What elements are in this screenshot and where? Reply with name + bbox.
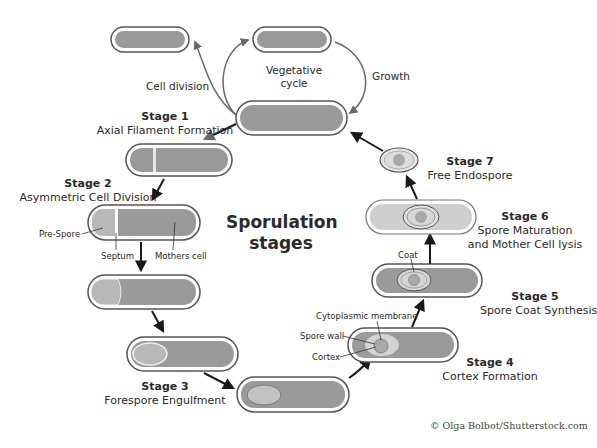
cell-stage6	[366, 200, 476, 234]
mothers-cell-label: Mothers cell	[155, 251, 207, 261]
stage7-number: Stage 7	[425, 155, 515, 169]
stage4-label: Stage 4 Cortex Formation	[440, 356, 540, 384]
title-line1: Sporulation	[226, 212, 336, 233]
cell-stage7-endospore	[380, 148, 418, 172]
stage5-label: Stage 5 Spore Coat Synthesis	[480, 290, 590, 318]
stage3-label: Stage 3 Forespore Engulfment	[100, 380, 230, 408]
arrow-stage7-to-vegetative	[352, 133, 383, 151]
stage4-name: Cortex Formation	[442, 370, 537, 383]
stage2-label: Stage 2 Asymmetric Cell Division	[18, 177, 158, 205]
vegetative-label-line1: Vegetative	[259, 64, 329, 77]
credit-text: © Olga Bolbot/Shutterstock.com	[430, 420, 588, 431]
arrow-growth	[335, 42, 366, 113]
stage6-name-line2: and Mother Cell lysis	[465, 238, 585, 252]
cell-stage5	[372, 264, 482, 297]
stage1-label: Stage 1 Axial Filament Formation	[85, 110, 245, 138]
pre-spore-label: Pre-Spore	[39, 229, 80, 239]
cytoplasmic-membrane-label: Cytoplasmic membrane	[316, 311, 417, 321]
cortex-label: Cortex	[312, 352, 340, 362]
diagram-title: Sporulation stages	[226, 212, 336, 254]
cell-engulfment-start	[88, 275, 200, 309]
stage3-name: Forespore Engulfment	[104, 394, 225, 407]
stage7-label: Stage 7 Free Endospore	[425, 155, 515, 183]
cell-division-label: Cell division	[146, 80, 209, 93]
title-line2: stages	[226, 233, 336, 254]
cell-daughter-left	[111, 27, 189, 52]
stage1-number: Stage 1	[85, 110, 245, 124]
stage6-name: Spore Maturation	[465, 224, 585, 238]
stage3-number: Stage 3	[100, 380, 230, 394]
arrow-cell-division-left	[195, 42, 236, 115]
coat-label: Coat	[398, 250, 418, 260]
cell-stage3	[127, 337, 238, 371]
stage2-name: Asymmetric Cell Division	[19, 191, 156, 204]
cell-daughter-right	[253, 27, 331, 52]
stage6-number: Stage 6	[465, 210, 585, 224]
arrow-stage6-to-stage7	[407, 177, 417, 199]
septum-label: Septum	[101, 251, 134, 261]
stage6-label: Stage 6 Spore Maturation and Mother Cell…	[465, 210, 585, 252]
stage4-number: Stage 4	[440, 356, 540, 370]
cell-stage2	[88, 205, 200, 240]
stage5-number: Stage 5	[480, 290, 590, 304]
growth-label: Growth	[372, 70, 410, 83]
spore-wall-label: Spore wall	[300, 331, 344, 341]
cell-stage1	[126, 144, 232, 176]
stage5-name: Spore Coat Synthesis	[480, 304, 597, 317]
stage2-number: Stage 2	[18, 177, 158, 191]
vegetative-label-line2: cycle	[259, 77, 329, 90]
cell-engulfed	[237, 377, 349, 412]
cell-vegetative-large	[236, 101, 347, 135]
arrow-stage2b-to-stage3	[152, 311, 163, 331]
vegetative-cycle-label: Vegetative cycle	[259, 64, 329, 90]
stage7-name: Free Endospore	[428, 169, 513, 182]
stage1-name: Axial Filament Formation	[97, 124, 234, 137]
